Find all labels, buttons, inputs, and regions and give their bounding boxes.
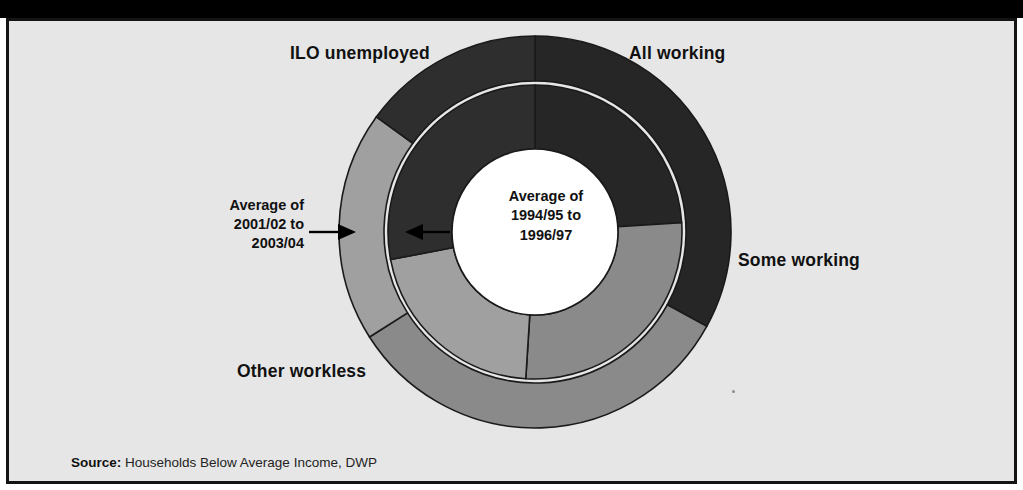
- chart-figure: ILO unemployed All working Some working …: [0, 0, 1023, 490]
- plot-area: ILO unemployed All working Some working …: [9, 21, 1014, 481]
- label-other-workless: Other workless: [237, 361, 366, 382]
- callout-inner-line-2: 1994/95 to: [471, 206, 621, 225]
- top-black-band: [0, 0, 1023, 18]
- label-ilo-unemployed: ILO unemployed: [290, 43, 430, 64]
- callout-outer-ring: Average of 2001/02 to 2003/04: [159, 196, 304, 253]
- callout-inner-line-3: 1996/97: [471, 226, 621, 245]
- callout-inner-line-1: Average of: [471, 187, 621, 206]
- callout-outer-line-2: 2001/02 to: [159, 215, 304, 234]
- label-some-working: Some working: [738, 250, 860, 271]
- source-label: Source:: [71, 455, 121, 470]
- label-all-working: All working: [629, 43, 726, 64]
- source-note: Source: Households Below Average Income,…: [71, 455, 377, 470]
- callout-inner-ring: Average of 1994/95 to 1996/97: [471, 187, 621, 245]
- chart-panel: ILO unemployed All working Some working …: [6, 18, 1017, 484]
- callout-outer-line-3: 2003/04: [159, 234, 304, 253]
- paper-speck: [732, 390, 735, 393]
- source-text: Households Below Average Income, DWP: [121, 455, 377, 470]
- callout-outer-line-1: Average of: [159, 196, 304, 215]
